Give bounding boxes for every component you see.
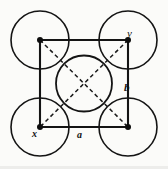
center-circle [56, 56, 112, 112]
vertex-dot-bottom-right [125, 124, 131, 130]
edge-label-a: a [77, 130, 82, 140]
diagram-canvas [0, 0, 168, 169]
vertex-label-x: x [32, 129, 37, 139]
packing-diagram-figure: y b x a [0, 0, 168, 169]
edge-label-b: b [124, 82, 130, 93]
vertex-label-y: y [127, 28, 132, 39]
vertex-dot-bottom-left [37, 124, 43, 130]
vertex-dot-top-left [37, 37, 43, 43]
